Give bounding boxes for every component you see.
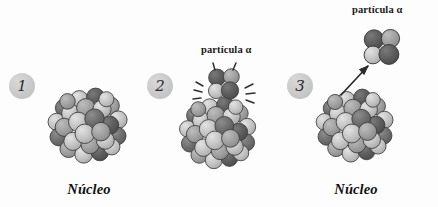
impact-lines-icon <box>193 63 255 103</box>
alpha-label-panel-2: partícula α <box>201 44 251 55</box>
step-2-number: 2 <box>155 78 165 93</box>
step-3-number: 3 <box>295 78 305 93</box>
emission-arrow-icon <box>341 66 368 95</box>
thorium-caption: Núcleo de torio <box>300 163 412 207</box>
uranium-caption: Núcleo de uranio <box>28 163 150 207</box>
emitting-nucleus-icon <box>180 96 256 169</box>
step-2-badge: 2 <box>147 73 173 99</box>
thorium-nucleus-icon <box>316 89 393 162</box>
uranium-caption-line-1: Núcleo <box>28 181 150 199</box>
step-3-badge: 3 <box>287 73 313 99</box>
step-1-badge: 1 <box>9 73 35 99</box>
uranium-nucleus-icon <box>48 88 127 163</box>
alpha-label-panel-3: partícula α <box>352 4 402 15</box>
alpha-particle-icon <box>364 29 400 64</box>
alpha-decay-figure: 1 2 3 Núcleo de uranio Núcleo de torio p… <box>0 0 438 207</box>
emerging-alpha-particle-icon <box>208 69 239 99</box>
thorium-caption-line-1: Núcleo <box>300 181 412 199</box>
step-1-number: 1 <box>17 78 27 93</box>
